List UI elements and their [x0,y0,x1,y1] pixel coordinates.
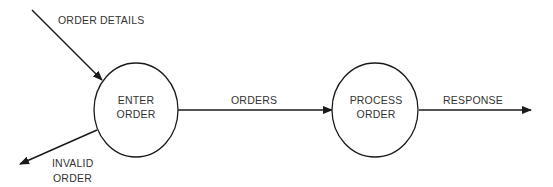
enter-order-label-line-1: ENTER [118,94,155,106]
process-order-label-line-2: ORDER [357,108,396,120]
node-process-order: PROCESS ORDER [332,63,418,157]
enter-order-label-line-2: ORDER [117,108,156,120]
order-details-label: ORDER DETAILS [58,14,144,26]
invalid-order-label-line-1: INVALID [52,157,94,169]
data-flow-diagram: ORDER DETAILS INVALID ORDER ORDERS RESPO… [0,0,553,187]
process-order-label-line-1: PROCESS [350,94,403,106]
response-label: RESPONSE [443,94,503,106]
node-enter-order: ENTER ORDER [94,63,178,157]
invalid-order-label-line-2: ORDER [53,172,92,184]
edge-response: RESPONSE [419,94,531,110]
edge-orders: ORDERS [178,94,332,110]
orders-label: ORDERS [231,94,277,106]
edge-invalid-order: INVALID ORDER [20,130,97,184]
